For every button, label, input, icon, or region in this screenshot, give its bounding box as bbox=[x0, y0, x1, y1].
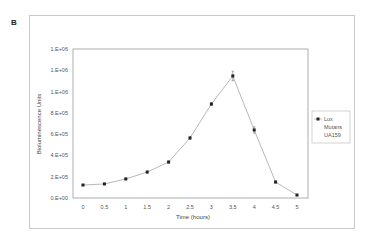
x-tick-label: 4.5 bbox=[272, 204, 280, 210]
data-point-marker bbox=[167, 161, 170, 164]
line-chart: 0.E+002.E+054.E+056.E+058.E+051.E+061.E+… bbox=[0, 0, 367, 244]
y-axis-ticks: 0.E+002.E+054.E+056.E+058.E+051.E+061.E+… bbox=[50, 46, 68, 201]
x-tick-label: 3.5 bbox=[229, 204, 237, 210]
y-tick-label: 1.E+06 bbox=[50, 67, 68, 73]
x-axis-title: Time (hours) bbox=[176, 214, 210, 220]
y-tick-label: 6.E+05 bbox=[50, 131, 68, 137]
y-tick-label: 4.E+05 bbox=[50, 152, 68, 158]
y-tick-label: 1.E+06 bbox=[50, 46, 68, 52]
y-tick-label: 8.E+05 bbox=[50, 110, 68, 116]
x-tick-label: 4 bbox=[253, 204, 256, 210]
x-tick-label: 2 bbox=[167, 204, 170, 210]
legend: Lux Mutans UA159 bbox=[312, 111, 350, 143]
x-tick-label: 3 bbox=[210, 204, 213, 210]
legend-label-line2: Mutans bbox=[324, 124, 342, 130]
data-point-marker bbox=[253, 128, 256, 131]
data-point-marker bbox=[124, 177, 127, 180]
data-point-marker bbox=[146, 171, 149, 174]
x-tick-label: 5 bbox=[295, 204, 298, 210]
legend-label-line1: Lux bbox=[324, 116, 333, 122]
data-point-marker bbox=[296, 194, 299, 197]
x-tick-label: 0.5 bbox=[101, 204, 109, 210]
legend-label-line3: UA159 bbox=[324, 132, 341, 138]
data-point-marker bbox=[210, 103, 213, 106]
x-tick-label: 0 bbox=[81, 204, 84, 210]
data-point-marker bbox=[274, 181, 277, 184]
data-point-marker bbox=[231, 74, 234, 77]
y-tick-label: 0.E+00 bbox=[50, 195, 68, 201]
legend-marker-icon bbox=[317, 118, 320, 121]
data-point-marker bbox=[82, 184, 85, 187]
x-tick-label: 1 bbox=[124, 204, 127, 210]
x-axis-ticks: 00.511.522.533.544.55 bbox=[81, 204, 298, 210]
data-point-marker bbox=[103, 182, 106, 185]
y-tick-label: 2.E+05 bbox=[50, 174, 68, 180]
data-point-marker bbox=[189, 136, 192, 139]
x-tick-label: 2.5 bbox=[186, 204, 194, 210]
x-tick-label: 1.5 bbox=[143, 204, 151, 210]
y-tick-label: 1.E+06 bbox=[50, 89, 68, 95]
y-axis-title: Bioluminescence Units bbox=[36, 94, 42, 155]
